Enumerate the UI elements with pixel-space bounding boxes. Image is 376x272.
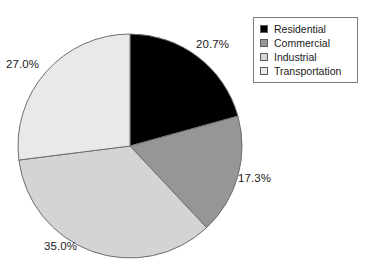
legend-swatch-transportation (260, 67, 268, 75)
chart-legend: Residential Commercial Industrial Transp… (253, 17, 358, 83)
legend-swatch-residential (260, 25, 268, 33)
slice-label-transportation: 27.0% (6, 58, 39, 70)
legend-item-commercial[interactable]: Commercial (260, 36, 351, 49)
legend-swatch-commercial (260, 39, 268, 47)
legend-label-industrial: Industrial (274, 51, 317, 63)
legend-item-industrial[interactable]: Industrial (260, 50, 351, 63)
legend-item-transportation[interactable]: Transportation (260, 64, 351, 77)
legend-item-residential[interactable]: Residential (260, 22, 351, 35)
legend-label-transportation: Transportation (274, 65, 341, 77)
slice-label-industrial: 35.0% (44, 240, 77, 252)
legend-label-commercial: Commercial (274, 37, 330, 49)
legend-label-residential: Residential (274, 23, 326, 35)
slice-label-commercial: 17.3% (238, 172, 271, 184)
pie-chart-figure: 20.7% 17.3% 35.0% 27.0% Residential Comm… (0, 0, 376, 272)
pie-slice-transportation[interactable] (18, 34, 130, 160)
pie-slice-group (18, 34, 242, 258)
legend-swatch-industrial (260, 53, 268, 61)
slice-label-residential: 20.7% (196, 38, 229, 50)
